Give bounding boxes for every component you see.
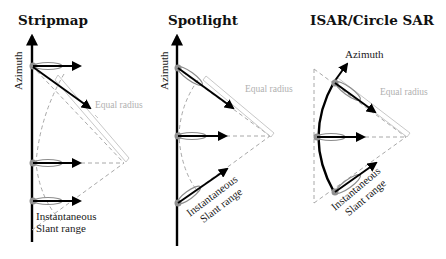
dashed-radius-line	[314, 69, 406, 137]
panel-spotlight: Spotlight Azimuth Equal radius Instantan…	[158, 12, 293, 246]
azimuth-label: Azimuth	[158, 51, 170, 90]
slant-range-label-line2: Slant range	[36, 222, 86, 234]
panel-title: Stripmap	[18, 12, 88, 28]
panel-title: ISAR/Circle SAR	[310, 12, 435, 28]
panel-title: Spotlight	[168, 12, 239, 28]
dashed-arc	[36, 74, 64, 222]
slant-range-label-line1: Instantaneous	[36, 210, 96, 222]
sar-modes-diagram: Stripmap Azimuth Equal radius Instantane…	[0, 0, 446, 259]
slant-range-arrow	[178, 68, 233, 108]
slant-range-arrow	[33, 67, 90, 108]
equal-radius-label: Equal radius	[245, 84, 293, 94]
panel-stripmap: Stripmap Azimuth Equal radius Instantane…	[12, 12, 143, 242]
azimuth-label: Azimuth	[12, 51, 24, 90]
equal-radius-bracket	[55, 75, 129, 162]
equal-radius-label: Equal radius	[95, 100, 143, 110]
azimuth-label: Azimuth	[345, 48, 384, 60]
equal-radius-label: Equal radius	[380, 87, 428, 97]
slant-range-arrow	[335, 83, 375, 112]
panel-isar-circle-sar: ISAR/Circle SAR Azimuth Equal radius Ins…	[310, 12, 435, 222]
